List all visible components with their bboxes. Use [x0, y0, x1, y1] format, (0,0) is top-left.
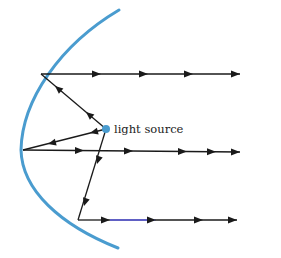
- arrow-icon: [178, 148, 187, 155]
- arrow-icon: [184, 71, 193, 78]
- arrow-icon: [139, 71, 148, 78]
- arrow-icon: [228, 217, 237, 224]
- arrow-icon: [231, 71, 240, 78]
- arrow-icon: [147, 217, 156, 224]
- light-source-dot: [102, 125, 110, 133]
- arrow-icon: [194, 217, 203, 224]
- ray-bottom: [78, 129, 237, 224]
- arrow-icon: [231, 149, 240, 156]
- parabolic-reflector-diagram: light source: [0, 0, 281, 258]
- arrow-icon: [124, 148, 133, 155]
- light-source-label: light source: [114, 122, 184, 136]
- ray-top: [41, 71, 240, 130]
- arrow-icon: [75, 147, 84, 154]
- arrow-icon: [92, 71, 101, 78]
- arrow-icon: [89, 128, 98, 137]
- arrow-icon: [101, 217, 110, 224]
- arrow-icon: [207, 148, 216, 155]
